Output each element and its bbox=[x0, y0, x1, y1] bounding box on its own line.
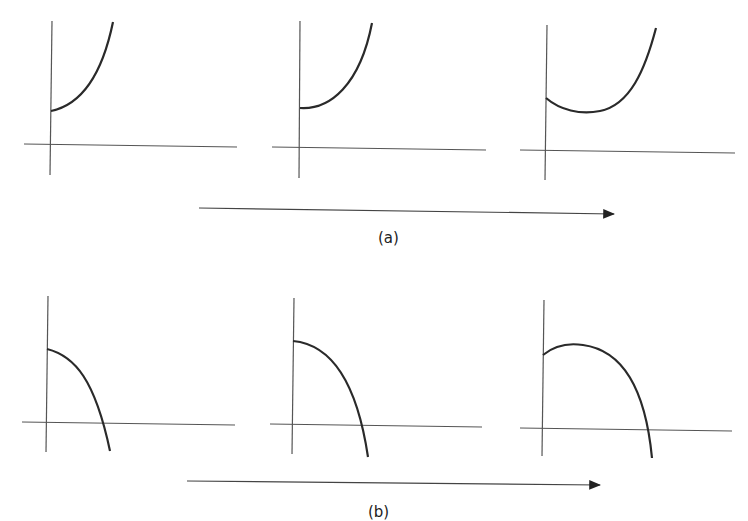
panel-b3 bbox=[520, 300, 732, 458]
panel-a2 bbox=[272, 21, 486, 178]
panel-b1 bbox=[22, 296, 235, 452]
panel-b2 bbox=[270, 298, 482, 457]
arrow-b bbox=[187, 481, 600, 485]
panel-a1 bbox=[24, 21, 237, 175]
caption-a: (a) bbox=[378, 229, 399, 247]
arrow-a bbox=[199, 208, 614, 214]
panel-a3 bbox=[520, 25, 735, 180]
caption-b: (b) bbox=[368, 503, 389, 521]
